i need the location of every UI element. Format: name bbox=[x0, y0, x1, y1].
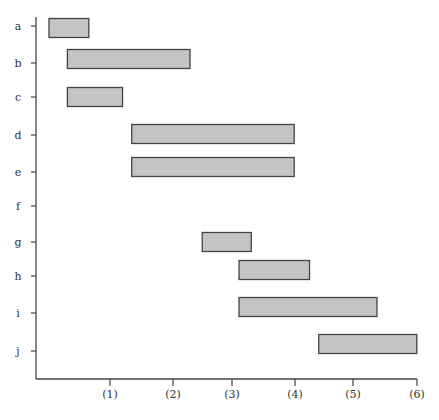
x-tick-label: (2) bbox=[165, 388, 181, 401]
x-tick-label: (6) bbox=[409, 388, 425, 401]
x-tick-label: (1) bbox=[102, 388, 118, 401]
y-tick-label: b bbox=[14, 57, 21, 70]
x-tick-label: (3) bbox=[224, 388, 240, 401]
y-tick-label: h bbox=[14, 270, 21, 283]
y-axis-labels: abcdefghij bbox=[14, 20, 21, 358]
x-tick-label: (5) bbox=[345, 388, 361, 401]
bar-i bbox=[239, 298, 377, 317]
y-tick-label: i bbox=[16, 307, 20, 320]
x-tick-label: (4) bbox=[287, 388, 303, 401]
bar-h bbox=[239, 261, 309, 280]
y-tick-label: d bbox=[14, 129, 21, 142]
bars bbox=[49, 19, 417, 354]
y-tick-label: f bbox=[16, 200, 21, 213]
bar-e bbox=[132, 158, 294, 177]
bar-j bbox=[319, 335, 417, 354]
x-axis-labels: (1)(2)(3)(4)(5)(6) bbox=[102, 388, 425, 401]
y-tick-label: c bbox=[15, 91, 21, 104]
bar-g bbox=[202, 233, 251, 252]
y-tick-label: j bbox=[14, 345, 19, 358]
bar-b bbox=[67, 50, 190, 69]
interval-chart: abcdefghij (1)(2)(3)(4)(5)(6) bbox=[0, 0, 439, 420]
y-tick-label: e bbox=[15, 166, 22, 179]
bar-a bbox=[49, 19, 89, 38]
y-tick-label: a bbox=[15, 20, 22, 33]
bar-d bbox=[132, 125, 294, 144]
axes bbox=[31, 17, 417, 386]
y-tick-label: g bbox=[14, 236, 21, 249]
bar-c bbox=[67, 88, 122, 107]
